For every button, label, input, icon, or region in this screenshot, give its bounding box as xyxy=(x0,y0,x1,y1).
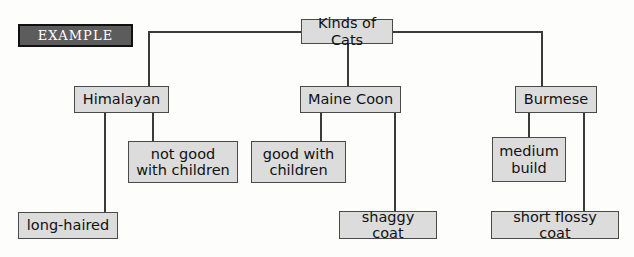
connector-burmese-to-mediumbuild xyxy=(528,112,530,138)
connector-root-to-burmese-vertical xyxy=(541,31,543,87)
node-short-flossy-coat[interactable]: short flossy coat xyxy=(491,211,619,239)
node-short-flossy-coat-label: short flossy coat xyxy=(492,209,618,241)
node-himalayan[interactable]: Himalayan xyxy=(74,86,169,113)
node-medium-build-label: medium build xyxy=(495,143,563,175)
connector-mainecoon-to-shaggycoat xyxy=(394,112,396,212)
connector-root-left-horizontal xyxy=(148,31,301,33)
node-shaggy-coat[interactable]: shaggy coat xyxy=(339,211,437,239)
node-maine-coon[interactable]: Maine Coon xyxy=(300,86,401,113)
node-shaggy-coat-label: shaggy coat xyxy=(340,209,436,241)
node-not-good-with-children[interactable]: not good with children xyxy=(128,141,238,183)
node-maine-coon-label: Maine Coon xyxy=(304,91,397,107)
connector-root-to-himalayan-vertical xyxy=(148,31,150,87)
node-burmese-label: Burmese xyxy=(520,91,592,107)
node-medium-build[interactable]: medium build xyxy=(492,137,566,182)
connector-himalayan-to-notgood xyxy=(152,112,154,142)
node-not-good-with-children-label: not good with children xyxy=(132,146,234,178)
node-kinds-of-cats-label: Kinds of Cats xyxy=(302,15,392,47)
node-himalayan-label: Himalayan xyxy=(79,91,165,107)
example-badge-label: EXAMPLE xyxy=(38,28,114,43)
concept-map-diagram: EXAMPLE Kinds of Cats Himalayan Maine Co… xyxy=(0,0,634,257)
node-long-haired[interactable]: long-haired xyxy=(18,212,118,239)
connector-himalayan-to-longhaired xyxy=(104,112,106,213)
connector-burmese-to-shortflossy xyxy=(583,112,585,212)
node-good-with-children-label: good with children xyxy=(259,146,339,178)
node-good-with-children[interactable]: good with children xyxy=(251,141,346,183)
connector-root-right-horizontal xyxy=(393,31,543,33)
connector-root-to-mainecoon-vertical xyxy=(347,44,349,87)
node-burmese[interactable]: Burmese xyxy=(515,86,597,113)
example-badge: EXAMPLE xyxy=(18,24,133,47)
node-long-haired-label: long-haired xyxy=(23,217,113,233)
connector-mainecoon-to-goodwith xyxy=(320,112,322,142)
node-kinds-of-cats[interactable]: Kinds of Cats xyxy=(301,19,393,44)
